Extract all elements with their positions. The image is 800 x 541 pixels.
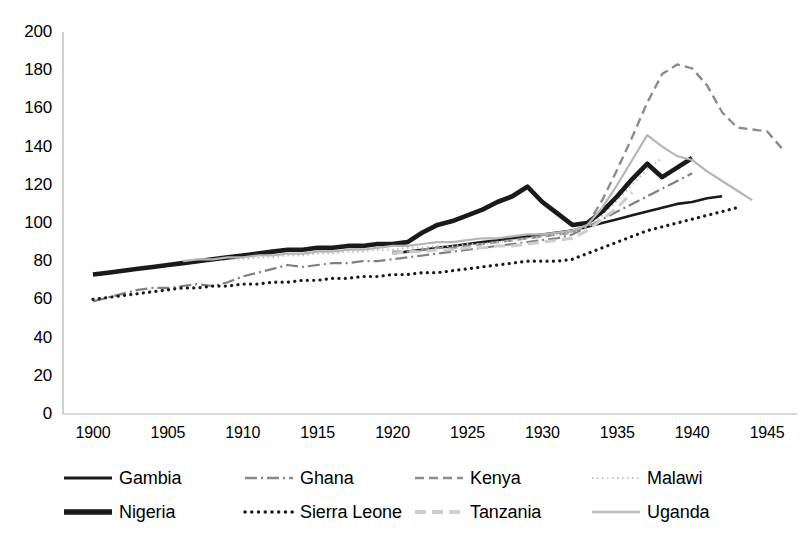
x-tick-label: 1940 <box>675 424 710 442</box>
legend-label: Gambia <box>119 468 181 489</box>
plot-area: 020406080100120140160180200 190019051910… <box>0 0 800 460</box>
y-tick-label: 160 <box>24 98 52 118</box>
legend-label: Malawi <box>647 468 702 489</box>
legend-item-gambia[interactable]: Gambia <box>62 462 181 494</box>
x-tick-label: 1915 <box>300 424 335 442</box>
series-lines <box>93 64 782 301</box>
legend-item-kenya[interactable]: Kenya <box>413 462 521 494</box>
x-tick-label: 1935 <box>600 424 635 442</box>
legend-swatch-icon <box>243 469 295 487</box>
y-tick-label: 100 <box>24 213 52 233</box>
x-tick-label: 1945 <box>750 424 785 442</box>
legend-swatch-icon <box>62 503 114 521</box>
legend-item-malawi[interactable]: Malawi <box>590 462 702 494</box>
chart-legend: GambiaGhanaKenyaMalawiNigeriaSierra Leon… <box>0 462 800 541</box>
legend-swatch-icon <box>413 469 465 487</box>
y-tick-label: 80 <box>33 251 52 271</box>
legend-label: Tanzania <box>470 502 541 523</box>
y-tick-label: 60 <box>33 289 52 309</box>
legend-row: GambiaGhanaKenyaMalawi <box>0 462 800 494</box>
legend-label: Nigeria <box>119 502 175 523</box>
y-tick-label: 20 <box>33 366 52 386</box>
x-tick-label: 1925 <box>450 424 485 442</box>
x-tick-label: 1920 <box>375 424 410 442</box>
y-tick-label: 120 <box>24 175 52 195</box>
plot-canvas <box>0 0 800 460</box>
x-tick-label: 1900 <box>76 424 111 442</box>
x-tick-label: 1910 <box>225 424 260 442</box>
legend-swatch-icon <box>62 469 114 487</box>
legend-item-nigeria[interactable]: Nigeria <box>62 496 175 528</box>
legend-label: Sierra Leone <box>300 502 402 523</box>
legend-swatch-icon <box>243 503 295 521</box>
y-tick-label: 140 <box>24 137 52 157</box>
legend-item-uganda[interactable]: Uganda <box>590 496 709 528</box>
series-line-uganda <box>183 135 752 261</box>
legend-item-tanzania[interactable]: Tanzania <box>413 496 541 528</box>
legend-label: Uganda <box>647 502 709 523</box>
y-tick-label: 0 <box>43 404 52 424</box>
legend-swatch-icon <box>590 503 642 521</box>
y-tick-label: 200 <box>24 22 52 42</box>
legend-swatch-icon <box>413 503 465 521</box>
series-line-malawi <box>198 158 662 261</box>
legend-item-sierra-leone[interactable]: Sierra Leone <box>243 496 402 528</box>
legend-row: NigeriaSierra LeoneTanzaniaUganda <box>0 496 800 528</box>
legend-item-ghana[interactable]: Ghana <box>243 462 354 494</box>
line-chart: 020406080100120140160180200 190019051910… <box>0 0 800 541</box>
legend-label: Kenya <box>470 468 521 489</box>
x-tick-label: 1930 <box>525 424 560 442</box>
y-tick-label: 40 <box>33 328 52 348</box>
legend-label: Ghana <box>300 468 354 489</box>
axis-lines <box>63 32 797 414</box>
series-line-ghana <box>93 173 692 301</box>
x-tick-label: 1905 <box>150 424 185 442</box>
y-tick-label: 180 <box>24 60 52 80</box>
legend-swatch-icon <box>590 469 642 487</box>
